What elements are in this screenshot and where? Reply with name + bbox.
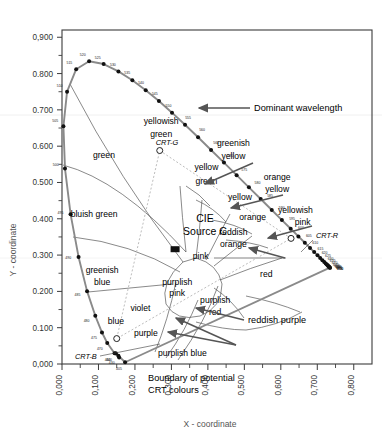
x-tick-label: 0,600 xyxy=(274,375,283,396)
spectral-point xyxy=(87,59,91,63)
region-label: bluish green xyxy=(71,209,118,219)
wavelength-label: 405 xyxy=(116,367,122,371)
spectral-point xyxy=(65,90,69,94)
wavelength-label: 470 xyxy=(97,347,103,351)
wavelength-label: 555 xyxy=(185,116,191,120)
crt-r-label: CRT-R xyxy=(316,231,339,240)
spectral-point xyxy=(312,250,316,254)
spectral-point xyxy=(170,111,174,115)
region-label: purplish xyxy=(200,295,230,305)
spectral-point xyxy=(328,266,332,270)
crt-primary-crtr-marker xyxy=(288,235,294,241)
spectral-point xyxy=(144,88,148,92)
region-label: orange xyxy=(264,172,291,182)
spectral-point xyxy=(77,255,81,259)
wavelength-label: 550 xyxy=(166,104,172,108)
wavelength-label: 510 xyxy=(57,84,63,88)
wavelength-label: 530 xyxy=(110,63,116,67)
wavelength-label: 525 xyxy=(95,56,101,60)
wavelength-label: 750 xyxy=(337,267,343,271)
wavelength-label: 560 xyxy=(199,128,205,132)
x-tick-label: 0,100 xyxy=(91,375,100,396)
spectral-point xyxy=(289,227,293,231)
cie-chromaticity-diagram: 0,0000.1000.2000.3000.4000.5000.6000.700… xyxy=(0,0,382,435)
spectral-point xyxy=(102,62,106,66)
region-label: reddish xyxy=(219,227,247,237)
spectral-point xyxy=(74,67,78,71)
spectral-point xyxy=(123,360,127,364)
region-label: purplish blue xyxy=(158,348,207,358)
spectral-point xyxy=(270,208,274,212)
region-label: pink xyxy=(193,251,209,261)
y-tick-label: 0,900 xyxy=(33,33,54,42)
y-tick-label: 0.800 xyxy=(33,70,54,79)
region-label: violet xyxy=(130,303,151,313)
crt-b-label: CRT-B xyxy=(75,352,97,361)
region-label: purplish xyxy=(162,277,192,287)
spectral-point xyxy=(117,356,121,360)
region-label: purple xyxy=(134,328,158,338)
wavelength-label: 460 xyxy=(105,358,111,362)
spectral-point xyxy=(280,218,284,222)
y-tick-label: 0,000 xyxy=(33,360,54,369)
spectral-point xyxy=(183,123,187,127)
annotation-boundary-line2: CRT colours xyxy=(148,385,199,395)
wavelength-label: 540 xyxy=(138,81,144,85)
spectral-point xyxy=(130,78,134,82)
wavelength-label: 490 xyxy=(65,256,71,260)
spectral-point xyxy=(222,161,226,165)
y-tick-label: 0.600 xyxy=(33,142,54,151)
spectral-point xyxy=(93,314,97,318)
spectral-point xyxy=(296,234,300,238)
spectral-point xyxy=(209,148,213,152)
x-tick-label: 0,000 xyxy=(55,375,64,396)
wavelength-label: 545 xyxy=(152,92,158,96)
wavelength-label: 610 xyxy=(312,241,318,245)
wavelength-label: 495 xyxy=(57,211,63,215)
region-label: yellow xyxy=(228,192,253,202)
spectral-point xyxy=(105,341,109,345)
region-label: orange xyxy=(220,239,247,249)
region-label: green xyxy=(93,150,115,160)
region-label: yellow xyxy=(221,151,246,161)
wavelength-label: 480 xyxy=(84,319,90,323)
x-axis-title: X - coordinate xyxy=(184,419,237,429)
region-label: greenish xyxy=(86,265,119,275)
region-label: pink xyxy=(169,288,185,298)
region-label: greenish xyxy=(217,138,250,148)
source-c-marker xyxy=(171,246,180,252)
region-label: pink xyxy=(295,217,311,227)
wavelength-label: 535 xyxy=(124,71,130,75)
spectral-point xyxy=(100,330,104,334)
region-label: red xyxy=(260,269,273,279)
chart-container: 0,0000.1000.2000.3000.4000.5000.6000.700… xyxy=(0,0,382,435)
x-tick-label: 0,800 xyxy=(347,375,356,396)
y-tick-label: 0.200 xyxy=(33,287,54,296)
region-label: yellow xyxy=(265,184,290,194)
annotation-dominant-wavelength: Dominant wavelength xyxy=(254,103,342,113)
wavelength-label: 605 xyxy=(306,234,312,238)
crt-primary-crtb-marker xyxy=(114,336,120,342)
spectral-point xyxy=(63,167,67,171)
y-tick-label: 0.100 xyxy=(33,324,54,333)
source-c-label-line1: CIE xyxy=(196,212,214,224)
x-tick-label: 0,700 xyxy=(310,375,319,396)
y-tick-label: 0.300 xyxy=(33,251,54,260)
y-tick-label: 0.700 xyxy=(33,106,54,115)
region-label: blue xyxy=(108,316,124,326)
x-tick-label: 0,200 xyxy=(128,375,137,396)
spectral-point xyxy=(85,289,89,293)
region-label: yellow xyxy=(194,162,219,172)
spectral-point xyxy=(61,124,65,128)
region-label: green xyxy=(150,129,172,139)
y-tick-label: 0.500 xyxy=(33,178,54,187)
wavelength-label: 485 xyxy=(74,293,80,297)
region-label: blue xyxy=(94,277,110,287)
wavelength-label: 475 xyxy=(91,336,97,340)
annotation-boundary-line1: Boundary of potential xyxy=(148,373,235,383)
y-tick-label: 0.400 xyxy=(33,215,54,224)
spectral-point xyxy=(196,135,200,139)
region-label: yellowish xyxy=(278,205,313,215)
region-label: yellowish xyxy=(144,116,179,126)
wavelength-label: 580 xyxy=(255,181,261,185)
